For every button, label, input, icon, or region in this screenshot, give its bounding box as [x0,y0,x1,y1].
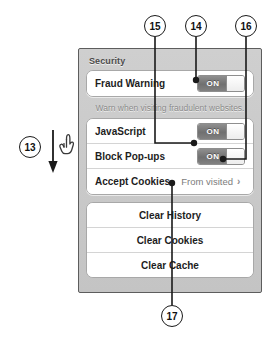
browser-options-group: JavaScript ON Block Pop-ups ON [86,118,254,195]
fraud-warning-footnote: Warn when visiting fraudulent websites. [86,100,254,118]
toggle-state-label: ON [207,79,220,88]
section-title-security: Security [89,56,254,66]
toggle-knob [226,124,244,139]
toggle-state-label: ON [207,127,220,136]
row-fraud-warning[interactable]: Fraud Warning ON [87,71,253,96]
toggle-knob [226,149,244,164]
fraud-warning-toggle[interactable]: ON [197,75,245,92]
block-popups-toggle[interactable]: ON [197,148,245,165]
row-javascript[interactable]: JavaScript ON [87,119,253,144]
security-settings-panel: Security Fraud Warning ON Warn when visi… [78,48,262,293]
callout-15[interactable]: 15 [144,15,166,37]
toggle-track-on: ON [198,76,228,91]
javascript-toggle[interactable]: ON [197,123,245,140]
toggle-track-on: ON [198,149,228,164]
scroll-gesture-indicator [44,128,80,180]
toggle-knob [226,76,244,91]
panel-content: Security Fraud Warning ON Warn when visi… [79,49,261,285]
down-arrow-icon [48,130,57,173]
clear-actions-group: Clear History Clear Cookies Clear Cache [86,202,254,278]
clear-cache-button[interactable]: Clear Cache [87,253,253,277]
callout-14[interactable]: 14 [185,15,207,37]
callout-13[interactable]: 13 [19,136,41,158]
row-label-accept-cookies: Accept Cookies [95,176,181,187]
accept-cookies-row[interactable]: Accept Cookies From visited › [87,169,253,194]
accept-cookies-value: From visited [181,176,233,187]
row-label-javascript: JavaScript [95,126,197,137]
pointing-hand-icon [60,135,74,154]
clear-cookies-button[interactable]: Clear Cookies [87,228,253,253]
callout-16[interactable]: 16 [235,15,257,37]
fraud-warning-group: Fraud Warning ON [86,70,254,97]
chevron-right-icon: › [237,178,245,186]
clear-history-button[interactable]: Clear History [87,203,253,228]
row-block-popups[interactable]: Block Pop-ups ON [87,144,253,169]
row-label-fraud-warning: Fraud Warning [95,78,197,89]
toggle-track-on: ON [198,124,228,139]
callout-17[interactable]: 17 [161,305,183,327]
row-label-block-popups: Block Pop-ups [95,151,197,162]
toggle-state-label: ON [207,152,220,161]
